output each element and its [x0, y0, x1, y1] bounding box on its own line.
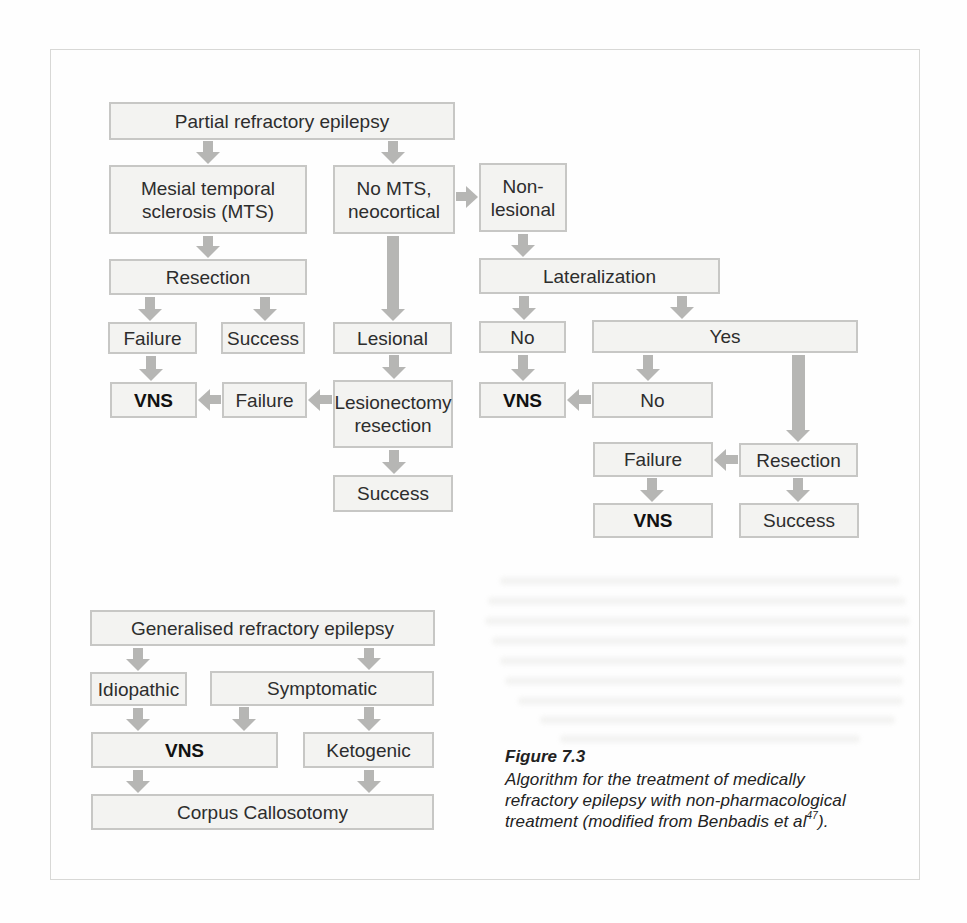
bleed-through-row — [492, 637, 907, 645]
figure-caption-line-3: treatment (modified from Benbadis et al4… — [505, 811, 885, 832]
scanned-book-page: Partial refractory epilepsyMesial tempor… — [0, 0, 967, 923]
bleed-through-row — [505, 677, 903, 685]
caption-reference-superscript: 47 — [807, 810, 818, 821]
bleed-through-row — [500, 657, 905, 665]
bleed-through-row — [518, 697, 903, 705]
bleed-through-row — [540, 716, 895, 724]
caption-line-3-text: treatment (modified from Benbadis et al — [505, 812, 807, 831]
figure-caption-line-1: Algorithm for the treatment of medically — [505, 769, 885, 790]
figure-caption-line-2: refractory epilepsy with non-pharmacolog… — [505, 790, 885, 811]
figure-caption-title: Figure 7.3 — [505, 747, 885, 767]
bleed-through-row — [500, 577, 900, 585]
bleed-through-row — [560, 735, 860, 743]
figure-caption: Figure 7.3 Algorithm for the treatment o… — [505, 747, 885, 832]
bleed-through-row — [488, 597, 906, 605]
caption-line-3-end: ). — [818, 812, 829, 831]
bleed-through-row — [485, 617, 910, 625]
